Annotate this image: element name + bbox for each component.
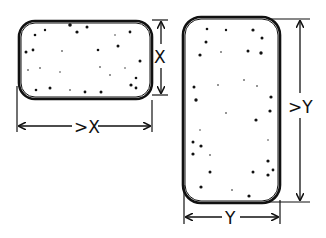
portrait-block — [183, 17, 280, 203]
landscape-block — [19, 21, 152, 99]
dimension-diagram: X >X >Y — [0, 0, 326, 238]
landscape-height-dimension: X — [152, 20, 168, 95]
portrait-width-label: Y — [224, 208, 236, 228]
landscape-height-label: X — [154, 47, 166, 67]
portrait-height-label: >Y — [288, 97, 313, 117]
landscape-width-label: >X — [74, 117, 100, 137]
